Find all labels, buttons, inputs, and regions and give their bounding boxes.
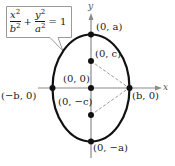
point-focus-top xyxy=(88,58,94,64)
plus-sign: + xyxy=(24,16,32,27)
label-left-covertex: (−b, 0) xyxy=(1,91,36,101)
point-center xyxy=(88,85,94,91)
fraction-x-over-b: x2 b2 xyxy=(10,9,21,35)
label-right-covertex: (b, 0) xyxy=(132,91,159,101)
point-focus-bottom xyxy=(88,112,94,118)
exponent: 2 xyxy=(41,22,45,30)
point-top-vertex xyxy=(88,32,94,38)
fraction-y-over-a: y2 a2 xyxy=(35,9,45,35)
point-left-covertex xyxy=(50,85,56,91)
y-axis-arrow-icon xyxy=(89,13,94,20)
label-bottom-vertex: (0, −a) xyxy=(93,143,128,153)
y-axis-label: y xyxy=(88,2,93,11)
exponent: 2 xyxy=(41,8,45,16)
exponent: 2 xyxy=(16,8,20,16)
equation-callout: x2 b2 + y2 a2 = 1 xyxy=(7,6,70,37)
label-top-vertex: (0, a) xyxy=(96,22,122,32)
label-focus-top: (0, c) xyxy=(95,49,121,59)
label-focus-bottom: (0, −c) xyxy=(58,97,93,107)
focal-line-bottom xyxy=(91,88,129,115)
focal-line-top xyxy=(91,61,129,88)
label-center: (0, 0) xyxy=(63,74,90,84)
x-axis-label: x xyxy=(163,83,168,92)
equals-one: = 1 xyxy=(48,16,66,27)
exponent: 2 xyxy=(16,22,20,30)
